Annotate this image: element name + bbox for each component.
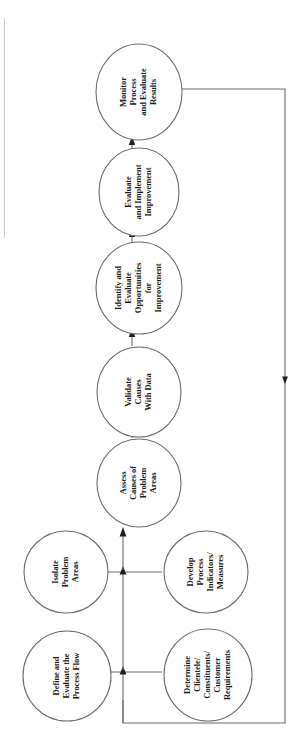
node-shape-develop-process-indicators-measures[interactable] bbox=[164, 531, 248, 613]
node-shape-monitor-process-and-evaluate-results[interactable] bbox=[96, 44, 182, 140]
flowchart-diagram: Monitor Process and Evaluate Results Eva… bbox=[0, 0, 300, 755]
node-shape-evaluate-and-implement-improvement[interactable] bbox=[99, 148, 179, 236]
node-shape-define-and-evaluate-the-process-flow[interactable] bbox=[23, 631, 111, 721]
node-shape-determine-clientele-constituents-customer-requirements[interactable] bbox=[164, 629, 252, 721]
arrowhead-into-assess bbox=[120, 527, 127, 536]
node-shape-identify-and-evaluate-opportunities-for-improvement[interactable] bbox=[96, 242, 182, 334]
feedback-loop-arrowhead bbox=[282, 377, 288, 384]
flowchart-vector-layer bbox=[0, 0, 300, 755]
node-shape-assess-causes-of-problem-areas[interactable] bbox=[97, 439, 181, 527]
node-shape-isolate-problem-areas[interactable] bbox=[24, 531, 108, 613]
node-shape-validate-causes-with-data[interactable] bbox=[97, 347, 181, 437]
